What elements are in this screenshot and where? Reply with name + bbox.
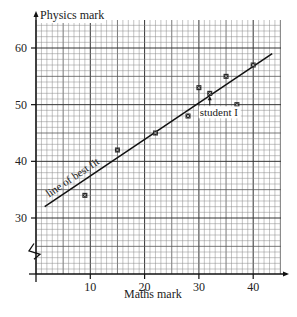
x-tick-label: 30 bbox=[193, 280, 205, 294]
axis-break-icon bbox=[29, 244, 40, 260]
x-tick-label: 40 bbox=[247, 280, 259, 294]
y-tick-label: 40 bbox=[15, 154, 27, 168]
y-tick-label: 50 bbox=[15, 98, 27, 112]
scatter-chart: 1020304030405060line of best fitstudent … bbox=[0, 0, 297, 317]
y-axis-label: Physics mark bbox=[39, 8, 105, 23]
x-axis-label: Maths mark bbox=[124, 287, 182, 302]
y-tick-label: 60 bbox=[15, 41, 27, 55]
x-axis-arrow-icon bbox=[283, 272, 289, 277]
student-annotation: student I bbox=[200, 106, 239, 118]
y-axis-arrow-icon bbox=[34, 11, 39, 17]
y-tick-label: 30 bbox=[15, 211, 27, 225]
x-tick-label: 10 bbox=[84, 280, 96, 294]
grid bbox=[36, 20, 281, 274]
